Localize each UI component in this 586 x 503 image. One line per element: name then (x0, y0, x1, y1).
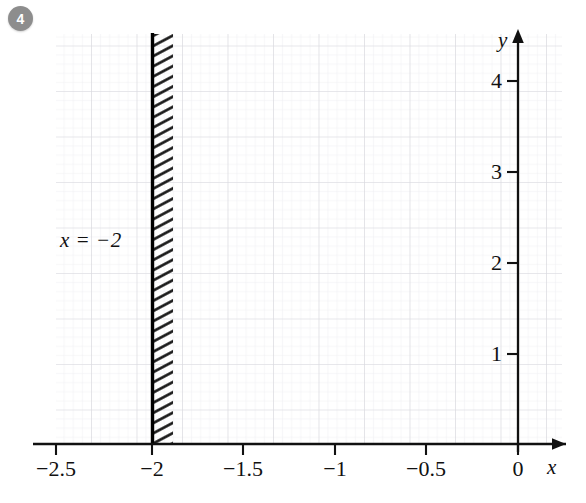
x-tick-marks (56, 444, 518, 455)
y-axis-label: y (498, 28, 507, 53)
y-tick-label: 3 (462, 159, 502, 185)
y-tick-label: 4 (462, 68, 502, 94)
line-equation-annotation: x = −2 (60, 228, 122, 253)
equation-text: x = −2 (60, 228, 122, 252)
x-tick-label: −1 (323, 456, 346, 482)
y-tick-label: 1 (462, 341, 502, 367)
figure-root: 4 (0, 0, 586, 503)
x-tick-label: −2.5 (36, 456, 76, 482)
hatch-band (153, 34, 173, 444)
x-tick-label: −0.5 (406, 456, 446, 482)
grid-background (56, 34, 562, 444)
x-tick-label: 0 (513, 456, 524, 482)
x-axis-label: x (547, 455, 556, 480)
x-tick-label: −1.5 (223, 456, 263, 482)
x-tick-label: −2 (140, 456, 163, 482)
y-tick-label: 2 (462, 250, 502, 276)
